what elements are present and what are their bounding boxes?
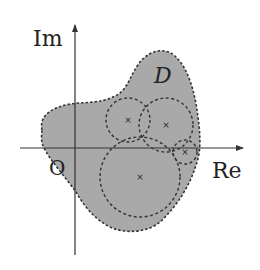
center-marker-2: ×: [162, 120, 170, 130]
center-marker-1: ×: [124, 115, 132, 125]
real-axis-label: Re: [212, 158, 242, 183]
imaginary-axis-label: Im: [33, 26, 63, 51]
region-d: [42, 51, 200, 232]
origin-label: O: [49, 156, 65, 180]
region-label: D: [153, 63, 172, 88]
complex-plane-diagram: × × × × Im Re O D: [0, 0, 260, 270]
center-marker-4: ×: [181, 147, 189, 157]
center-marker-3: ×: [136, 172, 144, 182]
